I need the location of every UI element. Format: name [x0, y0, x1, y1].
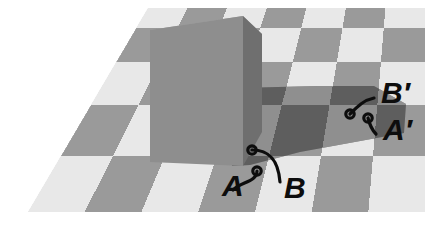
label-B-prime: B′	[381, 76, 412, 109]
checker-square	[337, 28, 384, 62]
checker-square	[343, 8, 386, 28]
checker-square	[301, 8, 346, 28]
checker-shadow-illusion-scene: ABA′B′	[0, 0, 447, 226]
cube-left-face	[150, 16, 243, 166]
checker-square	[312, 156, 373, 212]
label-B: B	[284, 171, 306, 204]
checker-square	[384, 8, 425, 28]
label-A: A	[221, 169, 244, 202]
checker-square	[381, 28, 425, 62]
cube-block	[150, 16, 262, 166]
label-A-prime: A′	[382, 113, 414, 146]
checker-square	[293, 28, 343, 62]
checker-square	[260, 8, 306, 28]
checker-square	[368, 156, 425, 212]
figure-canvas: ABA′B′	[0, 0, 447, 226]
